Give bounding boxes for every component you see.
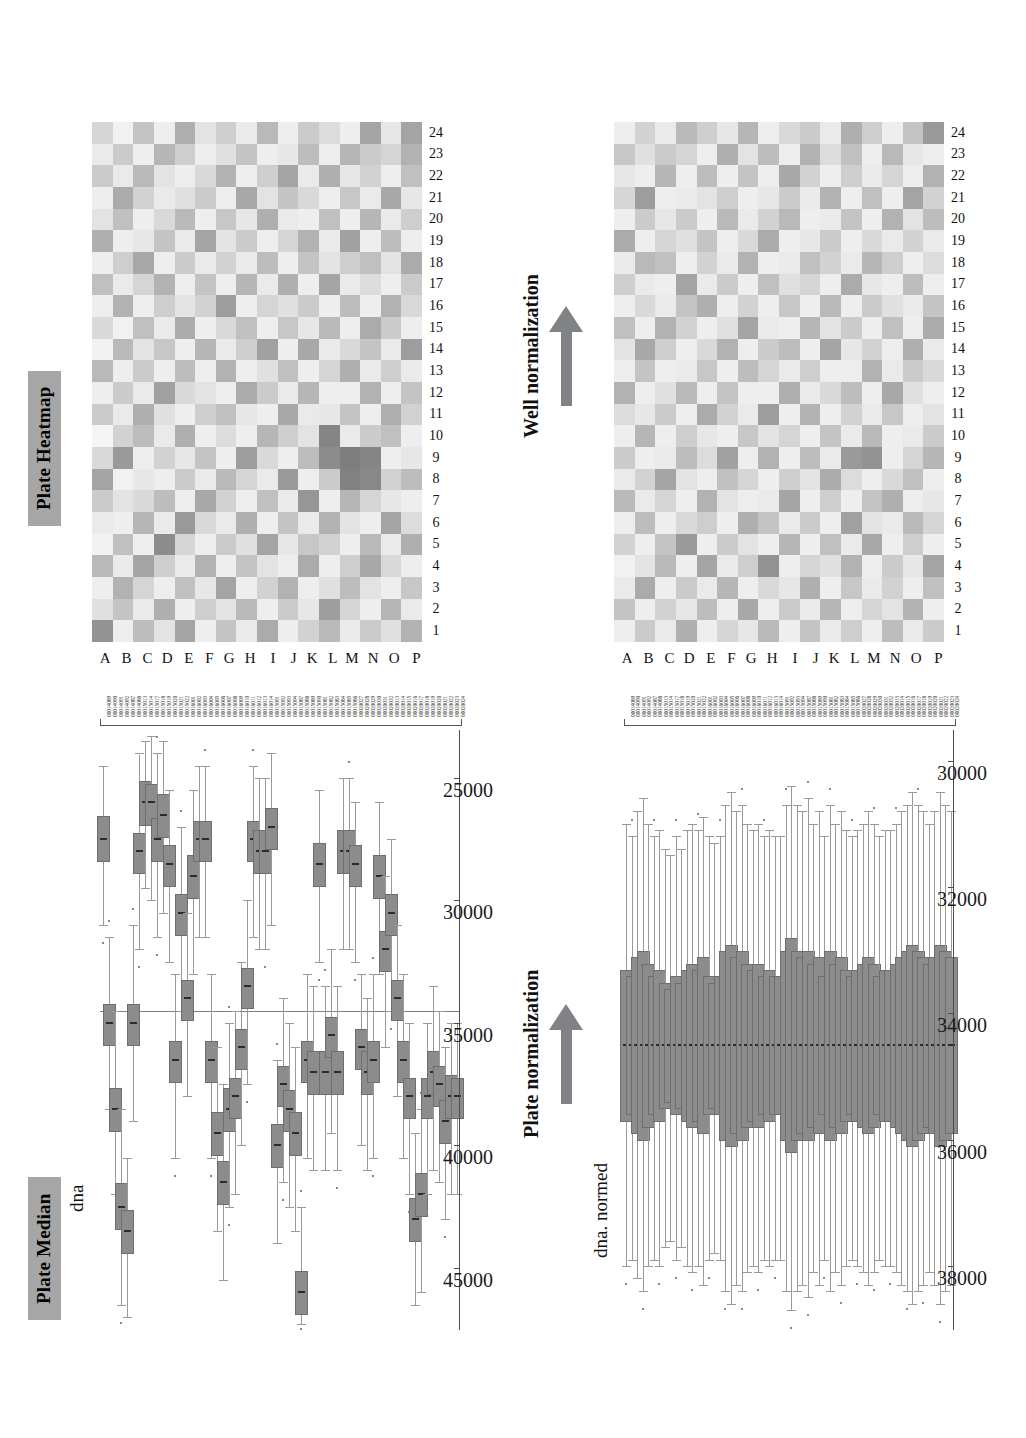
heatmap-cell — [195, 165, 216, 187]
heatmap-cell — [903, 339, 924, 361]
heatmap-row-label: P — [400, 650, 420, 667]
heatmap-cell — [175, 447, 196, 469]
whisker-cap — [947, 811, 956, 812]
heatmap-cell — [195, 404, 216, 426]
heatmap-cell — [401, 360, 422, 382]
heatmap-cell — [923, 230, 944, 252]
heatmap-cell — [319, 165, 340, 187]
heatmap-column-label: 21 — [948, 190, 968, 206]
heatmap-cell — [800, 360, 821, 382]
heatmap-cell — [820, 122, 841, 144]
heatmap-cell — [381, 555, 402, 577]
heatmap-cell — [381, 252, 402, 274]
heatmap-cell — [882, 230, 903, 252]
heatmap-cell — [758, 295, 779, 317]
x-axis-tick-label: 25000 — [443, 779, 493, 802]
heatmap-cell — [820, 425, 841, 447]
heatmap-cell — [779, 447, 800, 469]
heatmap-cell — [697, 425, 718, 447]
heatmap-cell — [655, 404, 676, 426]
heatmap-cell — [340, 295, 361, 317]
heatmap-cell — [923, 165, 944, 187]
heatmap-cell — [676, 534, 697, 556]
heatmap-cell — [635, 122, 656, 144]
heatmap-row-label: C — [132, 650, 152, 667]
heatmap-cell — [635, 187, 656, 209]
heatmap-cell — [278, 447, 299, 469]
heatmap-cell — [92, 295, 113, 317]
heatmap-cell — [298, 144, 319, 166]
heatmap-cell — [216, 187, 237, 209]
heatmap-cell — [614, 425, 635, 447]
heatmap-cell — [133, 209, 154, 231]
heatmap-cell — [319, 469, 340, 491]
heatmap-cell — [113, 425, 134, 447]
heatmap-cell — [195, 317, 216, 339]
heatmap-cell — [92, 534, 113, 556]
heatmap-cell — [614, 404, 635, 426]
heatmap-cell — [676, 252, 697, 274]
heatmap-cell — [655, 317, 676, 339]
heatmap-cell — [175, 339, 196, 361]
heatmap-column-label: 12 — [948, 385, 968, 401]
heatmap-cell — [298, 252, 319, 274]
heatmap-cell — [92, 230, 113, 252]
heatmap-cell — [133, 382, 154, 404]
heatmap-cell — [195, 469, 216, 491]
heatmap-cell — [236, 274, 257, 296]
heatmap-cell — [820, 252, 841, 274]
heatmap-cell — [195, 230, 216, 252]
heatmap-column-label: 13 — [426, 363, 446, 379]
heatmap-cell — [655, 295, 676, 317]
heatmap-cell — [381, 599, 402, 621]
heatmap-cell — [175, 620, 196, 642]
heatmap-cell — [655, 469, 676, 491]
heatmap-cell — [862, 512, 883, 534]
heatmap-cell — [340, 534, 361, 556]
heatmap-cell — [92, 382, 113, 404]
heatmap-column-label: 11 — [426, 407, 446, 423]
heatmap-row-label: C — [654, 650, 674, 667]
heatmap-cell — [381, 317, 402, 339]
heatmap-cell — [697, 144, 718, 166]
heatmap-cell — [113, 274, 134, 296]
heatmap-cell — [216, 425, 237, 447]
heatmap-cell — [738, 425, 759, 447]
heatmap-cell — [92, 620, 113, 642]
heatmap-cell — [676, 620, 697, 642]
arrow-glyph-well — [549, 306, 583, 406]
heatmap-cell — [236, 382, 257, 404]
heatmap-cell — [779, 187, 800, 209]
heatmap-row-label: J — [276, 650, 296, 667]
heatmap-cell — [635, 425, 656, 447]
heatmap-cell — [882, 404, 903, 426]
heatmap-row-label: G — [215, 650, 235, 667]
heatmap-cell — [800, 534, 821, 556]
heatmap-cell — [257, 295, 278, 317]
heatmap-cell — [779, 404, 800, 426]
heatmap-cell — [92, 339, 113, 361]
heatmap-cell — [903, 122, 924, 144]
heatmap-cell — [278, 122, 299, 144]
heatmap-cell — [882, 360, 903, 382]
heatmap-cell — [697, 295, 718, 317]
heatmap-cell — [655, 512, 676, 534]
heatmap-cell — [340, 339, 361, 361]
heatmap-cell — [257, 165, 278, 187]
heatmap-cell — [257, 230, 278, 252]
heatmap-cell — [655, 620, 676, 642]
heatmap-cell — [154, 144, 175, 166]
heatmap-cell — [841, 490, 862, 512]
heatmap-cell — [697, 447, 718, 469]
heatmap-cell — [738, 317, 759, 339]
heatmap-column-label: 19 — [426, 233, 446, 249]
heatmap-row-label: D — [153, 650, 173, 667]
heatmap-cell — [113, 317, 134, 339]
heatmap-column-label: 1 — [426, 623, 446, 639]
heatmap-cell — [882, 317, 903, 339]
heatmap-row-label: G — [737, 650, 757, 667]
heatmap-cell — [298, 122, 319, 144]
heatmap-cell — [697, 122, 718, 144]
heatmap-cell — [635, 599, 656, 621]
heatmap-cell — [401, 122, 422, 144]
